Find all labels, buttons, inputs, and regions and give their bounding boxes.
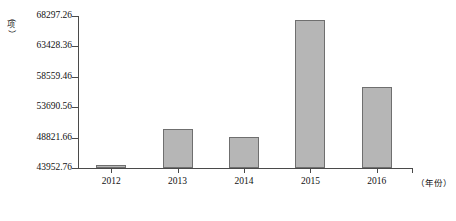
y-axis-tick-label: 53690.56 <box>10 101 72 111</box>
y-axis-tick-label: 68297.26 <box>10 10 72 20</box>
x-axis-tick-mark <box>244 168 245 173</box>
bar-2016 <box>362 87 392 168</box>
x-axis-tick-mark <box>111 168 112 173</box>
x-axis-tick-label-2015: 2015 <box>280 176 340 186</box>
x-axis-tick-mark <box>310 168 311 173</box>
y-axis-tick-label: 63428.36 <box>10 40 72 50</box>
x-axis-tick-label-2013: 2013 <box>148 176 208 186</box>
x-axis-line <box>78 168 413 169</box>
bar-2015 <box>295 20 325 168</box>
bar-chart: （ 项 ） 43952.7648821.6653690.5658559.4663… <box>0 0 456 221</box>
x-axis-unit-label: （年份） <box>416 176 452 188</box>
bar-2012 <box>96 165 126 168</box>
y-axis-tick-labels: 43952.7648821.6653690.5658559.4663428.36… <box>10 0 72 221</box>
x-axis-tick-mark <box>178 168 179 173</box>
x-axis-end-tick-mark <box>412 168 413 173</box>
bar-2014 <box>229 137 259 168</box>
y-axis-tick-label: 58559.46 <box>10 71 72 81</box>
y-axis-tick-label: 48821.66 <box>10 132 72 142</box>
x-axis-tick-label-2014: 2014 <box>214 176 274 186</box>
x-axis-tick-label-2016: 2016 <box>347 176 407 186</box>
plot-area <box>78 16 410 168</box>
x-axis-tick-label-2012: 2012 <box>81 176 141 186</box>
x-axis-tick-mark <box>377 168 378 173</box>
y-axis-tick-label: 43952.76 <box>10 162 72 172</box>
bar-2013 <box>163 129 193 168</box>
